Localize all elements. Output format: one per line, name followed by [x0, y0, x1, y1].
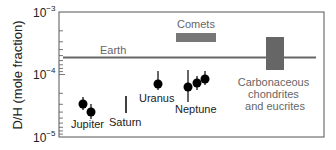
y-minor-ticks — [59, 31, 65, 134]
comets-range — [176, 33, 216, 42]
saturn-label: Saturn — [109, 116, 141, 128]
y-tick-1e-3: 10−3 — [33, 4, 56, 20]
uranus-point — [154, 71, 163, 90]
earth-label: Earth — [100, 44, 126, 56]
comets-label: Comets — [177, 18, 215, 30]
jupiter-label: Jupiter — [71, 118, 104, 130]
y-axis-label: D/H (mole fraction) — [10, 20, 25, 129]
carbonaceous-label: Carbonaceous chondrites and eucrites — [238, 76, 313, 112]
carbonaceous-range — [266, 37, 284, 70]
jupiter-points — [79, 97, 96, 119]
neptune-label: Neptune — [175, 103, 217, 115]
uranus-label: Uranus — [139, 92, 175, 104]
y-tick-1e-4: 10−4 — [33, 66, 56, 82]
neptune-points — [184, 70, 210, 102]
dh-ratio-chart: 10−3 10−4 10−5 D/H (mole fraction) Earth… — [0, 0, 336, 150]
y-tick-1e-5: 10−5 — [33, 129, 56, 145]
